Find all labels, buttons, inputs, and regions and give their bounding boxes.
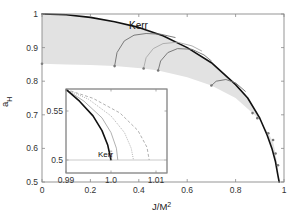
y-tick-label: 0.7 — [26, 110, 38, 120]
x-tick-label: 0.8 — [230, 185, 242, 195]
x-tick-label: 0.6 — [181, 185, 193, 195]
inset-x-tick-label: 1.0 — [105, 175, 117, 185]
y-axis-label: aH — [0, 97, 13, 107]
y-axis-label-subscript: H — [6, 97, 13, 102]
y-tick-label: 0.5 — [26, 177, 38, 187]
chart: 00.20.40.60.810.50.60.70.80.91 0.991.01.… — [0, 0, 297, 219]
y-tick-label: 0.9 — [26, 43, 38, 53]
inset-y-tick-label: 0.5 — [51, 155, 63, 165]
inset-plot: 0.991.01.010.50.55 — [46, 89, 167, 185]
x-axis-label: J/M2 — [152, 201, 171, 213]
data-marker — [142, 67, 145, 70]
x-tick-label: 0.2 — [84, 185, 96, 195]
y-tick-label: 1 — [33, 9, 38, 19]
inset-y-tick-label: 0.55 — [46, 106, 63, 116]
x-tick-label: 1 — [282, 185, 287, 195]
inset-kerr-label: Kerr — [98, 150, 113, 159]
data-marker — [113, 65, 116, 68]
data-marker — [272, 139, 275, 142]
inset-x-tick-label: 0.99 — [58, 175, 75, 185]
data-marker — [267, 132, 270, 135]
inset-x-tick-label: 1.01 — [148, 175, 165, 185]
data-marker — [256, 117, 259, 120]
x-tick-label: 0.4 — [133, 185, 145, 195]
y-tick-label: 0.8 — [26, 76, 38, 86]
data-marker — [277, 164, 280, 167]
data-marker — [274, 152, 277, 155]
data-marker — [210, 84, 213, 87]
y-tick-label: 0.6 — [26, 143, 38, 153]
data-marker — [251, 112, 254, 115]
x-axis-label-superscript: 2 — [167, 201, 171, 208]
kerr-label: Kerr — [129, 20, 149, 31]
x-axis-label-main: J/M — [152, 201, 167, 212]
data-marker — [157, 69, 160, 72]
x-tick-label: 0 — [40, 185, 45, 195]
